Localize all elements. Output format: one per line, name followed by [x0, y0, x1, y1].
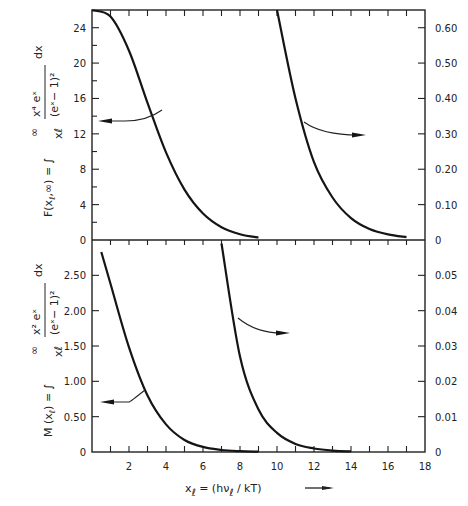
y-right-tick-label: 0.40: [435, 93, 457, 104]
top-ylabel-dx: dx: [32, 45, 45, 59]
y-right-tick-label: 0: [435, 235, 441, 246]
right-scale-arrow-icon: [238, 318, 290, 336]
y-right-tick-label: 0: [435, 447, 441, 458]
y-left-tick-label: 16: [73, 93, 86, 104]
top-ylabel-upper: ∞: [28, 128, 41, 137]
y-right-tick-label: 0.50: [435, 58, 457, 69]
x-tick-label: 14: [345, 461, 358, 472]
x-axis-arrow-icon: [305, 486, 334, 490]
x-tick-label: 2: [126, 461, 132, 472]
y-left-tick-label: 8: [80, 164, 86, 175]
top-ylabel-lhs: F(xℓ,∞) = ∫: [42, 158, 57, 217]
scale-pointers: [98, 110, 366, 405]
y-right-tick-label: 0.04: [435, 306, 457, 317]
y-left-tick-label: 24: [73, 23, 86, 34]
top-ylabel-lower: xℓ: [52, 128, 65, 139]
x-tick-label: 12: [308, 461, 321, 472]
y-left-tick-label: 0: [80, 447, 86, 458]
arrowhead: [100, 400, 114, 405]
y-left-tick-label: 0.50: [64, 412, 86, 423]
right-scale-arrow-icon: [304, 122, 366, 138]
bottom-ylabel-dx: dx: [32, 263, 45, 277]
y-left-tick-label: 2.00: [64, 306, 86, 317]
bottom-ylabel-lhs: M (xℓ) = ∫: [42, 384, 57, 437]
y-right-tick-label: 0.20: [435, 164, 457, 175]
x-tick-label: 4: [163, 461, 169, 472]
y-right-tick-label: 0.30: [435, 129, 457, 140]
top-ylabel-numerator: x⁴ eˣ: [30, 91, 43, 117]
y-right-tick-label: 0.10: [435, 200, 457, 211]
arrowhead: [352, 133, 366, 138]
chart-figure: 246810121416180481216202400.100.200.300.…: [0, 0, 468, 506]
curves: [92, 10, 407, 452]
y-left-tick-label: 2.50: [64, 270, 86, 281]
top-ylabel-denominator: (eˣ− 1)²: [48, 73, 61, 117]
bottom-ylabel-upper: ∞: [28, 346, 41, 355]
curve-M-right: [222, 244, 352, 452]
bottom-ylabel-denominator: (eˣ− 1)²: [48, 291, 61, 335]
x-tick-label: 18: [419, 461, 432, 472]
x-tick-label: 8: [237, 461, 243, 472]
bottom-ylabel-numerator: x² eˣ: [30, 309, 43, 335]
curve-M-left: [101, 252, 258, 452]
pointer-line: [304, 122, 358, 135]
tick-labels: 246810121416180481216202400.100.200.300.…: [64, 23, 458, 472]
bottom-y-axis-title: M (xℓ) = ∫ ∞ xℓ x² eˣ (eˣ− 1)² dx: [28, 263, 65, 437]
y-left-tick-label: 1.50: [64, 341, 86, 352]
pointer-line: [238, 318, 282, 333]
y-right-tick-label: 0.60: [435, 23, 457, 34]
arrowhead: [276, 331, 290, 336]
x-tick-label: 10: [271, 461, 284, 472]
y-left-tick-label: 12: [73, 129, 86, 140]
curve-F-right: [277, 10, 407, 237]
y-left-tick-label: 0: [80, 235, 86, 246]
y-right-tick-label: 0.05: [435, 270, 457, 281]
left-scale-arrow-icon: [100, 390, 145, 405]
arrowhead: [98, 119, 112, 124]
y-left-tick-label: 4: [80, 200, 86, 211]
y-right-tick-label: 0.02: [435, 376, 457, 387]
y-right-tick-label: 0.03: [435, 341, 457, 352]
x-tick-label: 16: [382, 461, 395, 472]
curve-F-left: [92, 10, 259, 237]
y-left-tick-label: 20: [73, 58, 86, 69]
x-tick-label: 6: [200, 461, 206, 472]
y-right-tick-label: 0.01: [435, 412, 457, 423]
bottom-ylabel-lower: xℓ: [52, 346, 65, 357]
top-y-axis-title: F(xℓ,∞) = ∫ ∞ xℓ x⁴ eˣ (eˣ− 1)² dx: [28, 45, 65, 217]
x-axis-title: xℓ = (hνℓ / kT): [185, 482, 262, 498]
y-left-tick-label: 1.00: [64, 376, 86, 387]
